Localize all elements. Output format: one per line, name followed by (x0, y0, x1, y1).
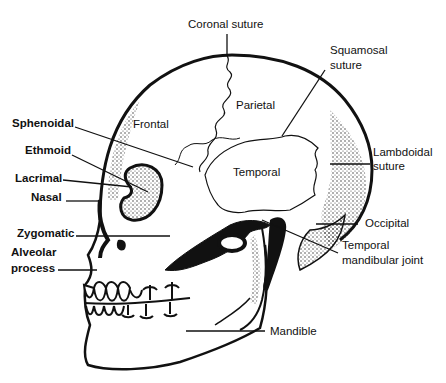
mandible-ramus-shading (250, 235, 260, 305)
label-sphenoidal: Sphenoidal (12, 116, 74, 130)
orbit (121, 165, 162, 220)
skull-diagram (0, 0, 446, 383)
nasal-bone (99, 200, 108, 258)
lacrimal-leader (63, 180, 132, 187)
nasal-cavity (117, 240, 126, 251)
label-alveolar-process-line2: process (11, 261, 55, 275)
upper-teeth (84, 282, 179, 301)
label-coronal-suture: Coronal suture (188, 17, 263, 31)
label-zygomatic: Zygomatic (17, 226, 75, 240)
label-squamosal-suture-line1: Squamosal (330, 43, 388, 57)
label-lambdoidal-suture-line2: suture (373, 159, 405, 173)
squamosal-leader (282, 70, 325, 136)
label-tmj-line2: mandibular joint (342, 253, 423, 267)
ear-canal (219, 235, 245, 251)
label-ethmoid: Ethmoid (25, 143, 71, 157)
label-parietal: Parietal (236, 98, 275, 112)
sphenoidal-leader (75, 127, 193, 167)
label-occipital: Occipital (365, 216, 409, 230)
label-alveolar-process-line1: Alveolar (11, 245, 56, 259)
label-temporal-bone: Temporal (233, 165, 280, 179)
label-tmj-line1: Temporal (342, 238, 389, 252)
mandible-inner-line (215, 298, 250, 325)
label-nasal: Nasal (31, 190, 62, 204)
label-lacrimal: Lacrimal (15, 171, 62, 185)
label-lambdoidal-suture-line1: Lambdoidal (373, 145, 432, 159)
label-frontal: Frontal (133, 117, 169, 131)
label-squamosal-suture-line2: suture (330, 58, 362, 72)
label-mandible: Mandible (270, 324, 317, 338)
